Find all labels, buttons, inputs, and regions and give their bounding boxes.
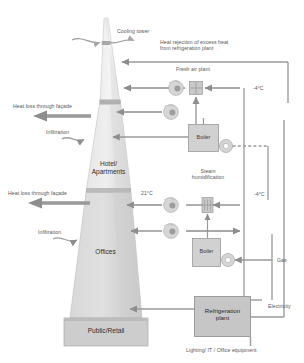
fan-icon-upper [169, 81, 184, 96]
infiltration-label-lower: Infiltration [38, 229, 61, 235]
infiltration-label-upper: Infiltration [46, 129, 69, 135]
fan-icon-mid [164, 105, 179, 120]
electricity-label: Electricity [268, 303, 291, 309]
heating-coil-icon-upper [190, 82, 203, 95]
diagram-graphics [0, 0, 304, 363]
heat-loss-label-upper: Heat loss through façade [13, 103, 72, 109]
humidifier-icon [202, 198, 213, 213]
temperature-fresh-air-mid: -4°C [254, 191, 265, 197]
infiltration-arrow-lower [53, 238, 77, 242]
gas-supply-pipe [235, 234, 272, 300]
cooling-tower-label: Cooling tower [117, 28, 149, 34]
heat-loss-arrow-upper [33, 110, 91, 121]
zone-label-hotel-apartments: Hotel/ Apartments [81, 160, 136, 175]
steam-humidification-label: Steam humidification [181, 168, 235, 180]
heat-loss-arrow-lower [28, 197, 90, 208]
zone-label-public-retail: Public/Retail [78, 327, 134, 335]
boiler-upper-label: Boiler [189, 134, 219, 140]
boiler-lower-label: Boiler [193, 248, 221, 254]
fan-icon-21c [164, 198, 179, 213]
loads-caption-label: Lighting/ IT / Office equipment [186, 347, 257, 353]
building-zone-hotel [86, 105, 131, 194]
zone-label-offices: Offices [78, 248, 133, 256]
refrigeration-plant-label: Refrigeration plant [195, 307, 251, 322]
temperature-fresh-air-top: -4°C [253, 85, 264, 91]
heat-rejection-label: Heat rejection of excess heat from refri… [160, 39, 228, 51]
diagram-canvas: Cooling tower Heat rejection of excess h… [0, 0, 304, 363]
temperature-supply-air: 21°C [141, 190, 153, 196]
gas-label: Gas [277, 257, 287, 263]
heat-loss-label-lower: Heat loss through façade [8, 190, 67, 196]
fresh-air-plant-label: Fresh air plant [176, 66, 210, 72]
infiltration-arrow-upper [62, 138, 84, 141]
fan-icon-lower [164, 224, 179, 239]
